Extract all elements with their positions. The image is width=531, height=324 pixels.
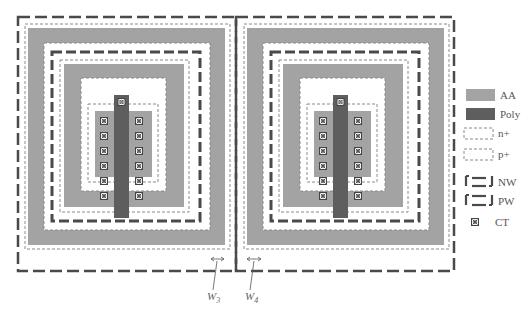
- pw-swatch-icon: [466, 195, 492, 205]
- nw-swatch-icon: [466, 176, 492, 186]
- svg-text:PW: PW: [498, 195, 515, 207]
- w4-annotation: W4: [245, 257, 261, 305]
- svg-text:n+: n+: [498, 127, 510, 139]
- w4-label: W4: [245, 290, 258, 305]
- legend-item-aa: AA: [466, 89, 516, 101]
- nplus-swatch-icon: [464, 128, 493, 139]
- poly-swatch-icon: [466, 108, 495, 120]
- svg-text:Poly: Poly: [500, 108, 521, 120]
- right-cell: [236, 17, 454, 271]
- svg-text:AA: AA: [500, 89, 516, 101]
- legend-item-ct: CT: [472, 216, 510, 228]
- left-cell: [18, 17, 236, 271]
- aa-swatch-icon: [466, 89, 495, 101]
- pplus-swatch-icon: [464, 149, 493, 160]
- legend-item-nw: NW: [466, 176, 517, 188]
- w3-annotation: W3: [207, 257, 224, 305]
- svg-text:CT: CT: [495, 216, 509, 228]
- legend-item-pplus: p+: [464, 148, 510, 160]
- legend: AA Poly n+ p+ NW: [464, 89, 521, 228]
- w3-label: W3: [207, 290, 220, 305]
- legend-item-poly: Poly: [466, 108, 521, 120]
- ct-swatch-icon: [472, 219, 479, 226]
- layout-diagram: W3 W4 AA Poly n+ p+: [0, 0, 531, 324]
- svg-text:p+: p+: [498, 148, 510, 160]
- legend-item-nplus: n+: [464, 127, 510, 139]
- svg-text:NW: NW: [498, 176, 517, 188]
- legend-item-pw: PW: [466, 195, 515, 207]
